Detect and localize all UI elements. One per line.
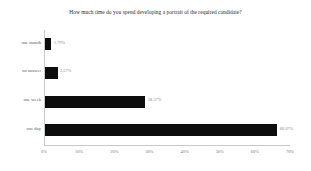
bar-value-one-week: 28.57% — [148, 97, 162, 103]
x-tick-label: 20% — [110, 149, 118, 155]
category-slot: one week — [0, 88, 41, 117]
bar-chart: How much time do you spend developing a … — [0, 0, 311, 171]
x-axis-line — [44, 145, 290, 146]
bar-row: 3.57% — [44, 59, 290, 88]
bar-value-one-day: 66.07% — [280, 126, 294, 132]
bar-row: 28.57% — [44, 88, 290, 117]
x-tick-label: 10% — [75, 149, 83, 155]
plot-area: 1.79% 3.57% 28.57% 66.07% — [44, 30, 290, 145]
bar-no-answer — [45, 67, 58, 79]
x-tick-label: 0% — [41, 149, 47, 155]
x-tick-label: 50% — [216, 149, 224, 155]
category-slot: no answer — [0, 59, 41, 88]
bar-one-day — [45, 124, 277, 136]
bar-one-week — [45, 96, 145, 108]
category-label-one-week: one week — [1, 97, 41, 103]
bar-value-no-answer: 3.57% — [60, 68, 71, 74]
category-slot: one day — [0, 116, 41, 145]
category-axis: one month no answer one week one day — [0, 30, 41, 145]
bar-row: 66.07% — [44, 116, 290, 145]
category-label-no-answer: no answer — [1, 68, 41, 74]
bar-one-month — [45, 38, 51, 50]
x-axis-ticks: 0%10%20%30%40%50%60%70% — [44, 149, 290, 159]
x-tick-label: 40% — [181, 149, 189, 155]
x-tick-label: 60% — [251, 149, 259, 155]
bar-row: 1.79% — [44, 30, 290, 59]
category-label-one-month: one month — [1, 40, 41, 46]
x-tick-label: 30% — [145, 149, 153, 155]
x-tick-label: 70% — [286, 149, 294, 155]
category-slot: one month — [0, 30, 41, 59]
bar-value-one-month: 1.79% — [54, 40, 65, 46]
chart-title: How much time do you spend developing a … — [0, 9, 311, 16]
category-label-one-day: one day — [1, 126, 41, 132]
